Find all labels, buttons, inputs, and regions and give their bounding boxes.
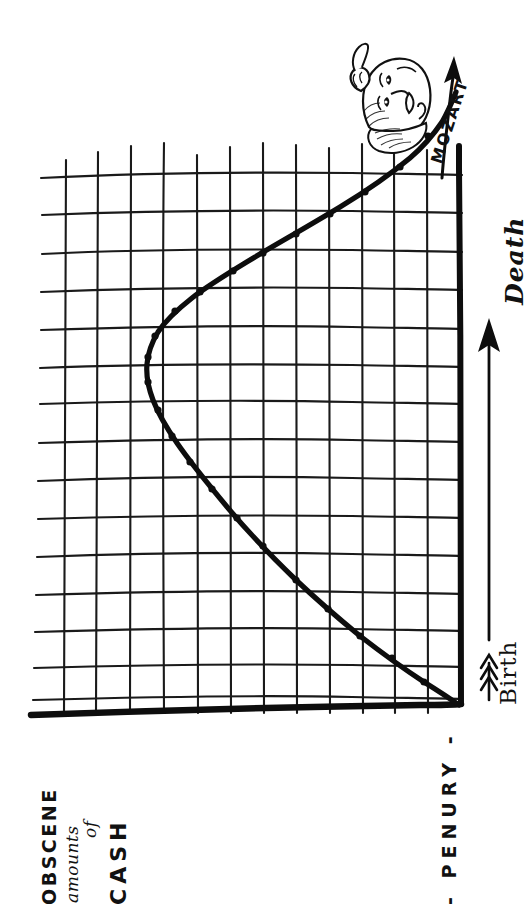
- mozart-head-icon: [351, 44, 431, 153]
- death-arrow-icon: [478, 318, 500, 640]
- time-axis-label-birth: Birth: [495, 641, 521, 705]
- value-axis-label-amounts: amounts: [62, 826, 82, 903]
- value-axis-label-of: of: [80, 820, 100, 838]
- time-axis-line: [459, 146, 461, 704]
- data-curve: [147, 92, 459, 705]
- time-axis-label-death: Death: [500, 216, 524, 305]
- value-axis-label-cash: CASH: [106, 818, 131, 905]
- value-axis-label-penury: - PENURY -: [438, 730, 460, 905]
- cartoon-chart-page: OBSCENE amounts of CASH - PENURY - Birth…: [0, 0, 524, 913]
- data-point-markers: [144, 132, 431, 685]
- value-axis-label-obscene: OBSCENE: [38, 787, 60, 905]
